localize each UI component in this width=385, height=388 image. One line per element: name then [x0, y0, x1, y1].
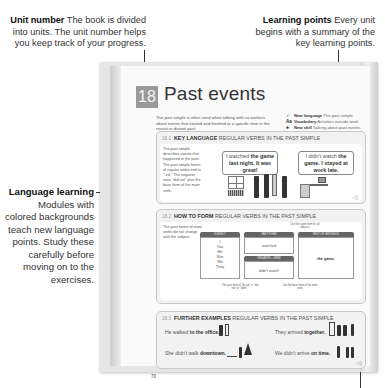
person-illustration	[254, 176, 259, 198]
person-illustration	[239, 347, 242, 358]
learning-points-summary: ♂New language The past simple AaVocabula…	[286, 113, 371, 131]
person-illustration	[282, 176, 287, 198]
module-how-to-form: 18.2HOW TO FORM REGULAR VERBS IN THE PAS…	[156, 209, 366, 304]
module-description: The past forms of most verbs do not chan…	[163, 225, 203, 241]
door-illustration	[329, 322, 335, 336]
annotation-note: The past form of "do not" is "did not" o…	[220, 284, 260, 291]
example-sentence: He walked to the office.	[165, 329, 219, 335]
module-further-examples: 18.3FURTHER EXAMPLES REGULAR VERBS IN TH…	[156, 311, 366, 369]
callout-title: Language learning	[9, 186, 94, 197]
person-illustration	[351, 347, 354, 358]
tree-illustration	[244, 343, 252, 355]
page-gutter	[111, 66, 121, 366]
bench-illustration	[227, 354, 237, 357]
callout-pointer-line	[360, 372, 361, 388]
negative-cell: didn't watch	[244, 261, 294, 279]
desk-illustration	[310, 184, 328, 186]
audio-icon[interactable]: ◁)	[352, 194, 358, 200]
example-sentence: They arrived together.	[275, 329, 325, 335]
window-illustration	[228, 176, 244, 189]
person-illustration	[343, 325, 347, 336]
past-form-cell: watched	[244, 237, 294, 254]
door-illustration	[225, 324, 229, 336]
person-illustration	[346, 347, 349, 358]
callout-text: Modules with colored backgrounds teach n…	[5, 199, 94, 285]
callout-unit-number: Unit number The book is divided into uni…	[6, 15, 146, 50]
annotation-note: Use the same form for all subjects.	[290, 223, 320, 230]
speech-bubble: I watched the game last night. It was gr…	[222, 151, 278, 175]
example-sentence: She didn't walk downtown.	[165, 350, 226, 356]
module-heading: 18.3FURTHER EXAMPLES REGULAR VERBS IN TH…	[162, 315, 334, 321]
book: 18 Past events The past simple is often …	[100, 62, 378, 372]
page-number: 70	[151, 374, 156, 379]
annotation-note: Use the base form of the main verb.	[282, 284, 318, 291]
person-illustration	[337, 346, 340, 358]
person-illustration	[219, 325, 223, 336]
unit-number-badge: 18	[136, 86, 158, 108]
module-body: The past forms of most verbs do not chan…	[160, 222, 362, 300]
module-key-language: 18.1KEY LANGUAGE REGULAR VERBS IN THE PA…	[156, 131, 366, 204]
example-sentence: We didn't arrive on time.	[275, 350, 330, 356]
person-illustration	[351, 324, 354, 336]
water-cooler-illustration	[272, 174, 277, 196]
rest-of-sentence-cell: the game.	[298, 237, 354, 279]
person-illustration	[264, 174, 269, 198]
module-body: The past simple describes events that ha…	[160, 144, 362, 202]
unit-intro: The past simple is often used when talki…	[156, 115, 276, 132]
radiator-illustration	[228, 190, 244, 196]
callout-learning-points: Learning points Every unit begins with a…	[240, 15, 375, 50]
subject-list: I You He She We They	[200, 237, 240, 279]
computer-illustration	[318, 177, 326, 183]
person-illustration	[337, 325, 341, 336]
cabinet-illustration	[300, 184, 310, 198]
callout-title: Learning points	[263, 15, 332, 25]
module-heading: 18.2HOW TO FORM REGULAR VERBS IN THE PAS…	[162, 213, 316, 219]
speech-bubble: I didn't watch the game. I stayed at wor…	[298, 151, 354, 175]
unit-title: Past events	[164, 83, 265, 105]
audio-icon[interactable]: ◁)	[356, 360, 362, 366]
callout-language-learning: Language learning Modules with colored b…	[4, 186, 94, 286]
module-heading: 18.1KEY LANGUAGE REGULAR VERBS IN THE PA…	[162, 135, 320, 141]
callout-title: Unit number	[10, 15, 64, 25]
book-page: 18 Past events The past simple is often …	[110, 66, 370, 366]
module-description: The past simple describes events that ha…	[163, 147, 203, 194]
